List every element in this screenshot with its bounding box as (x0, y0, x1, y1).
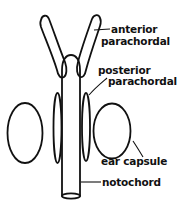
label-anterior-parachordal: parachordal (101, 35, 170, 47)
ear-capsule-right (94, 104, 131, 159)
leader-posterior-parachordal (89, 78, 107, 95)
posterior-parachordal-left (54, 93, 62, 163)
label-notochord: notochord (102, 176, 161, 188)
chondrocranium-diagram: anterior parachordal posterior parachord… (0, 0, 187, 208)
ear-capsule-left (8, 103, 43, 163)
label-ear-capsule: ear capsule (101, 155, 167, 167)
notochord-end-cap (62, 193, 80, 198)
label-anterior: anterior (111, 23, 158, 35)
leader-anterior-parachordal (94, 29, 110, 30)
posterior-parachordal-right (82, 93, 90, 161)
label-posterior-parachordal: parachordal (108, 75, 177, 87)
